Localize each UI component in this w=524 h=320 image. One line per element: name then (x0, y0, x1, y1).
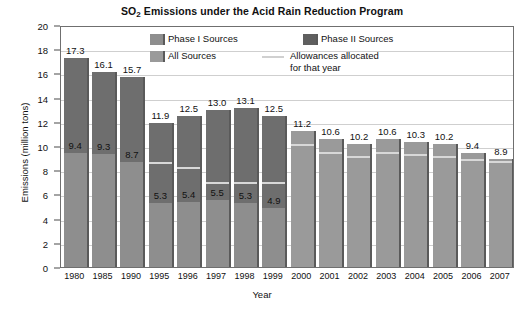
legend-row-2: All Sources Allowances allocated for tha… (150, 50, 450, 67)
legend-swatch-phase-ii-icon (303, 34, 316, 45)
chart-legend: Phase I Sources Phase II Sources All Sou… (150, 33, 450, 67)
x-axis-tick-label: 2001 (320, 271, 340, 281)
x-axis-tick-label: 1999 (263, 271, 283, 281)
legend-item-all-sources: All Sources (150, 50, 216, 62)
x-axis-tick-label: 1980 (64, 271, 84, 281)
x-axis-tick-label: 2004 (405, 271, 425, 281)
x-axis-title: Year (0, 289, 524, 300)
x-axis-tick-label: 2005 (433, 271, 453, 281)
x-axis-tick-label: 2006 (461, 271, 481, 281)
x-axis-tick-label: 1996 (178, 271, 198, 281)
legend-row-1: Phase I Sources Phase II Sources (150, 33, 450, 50)
legend-line-allowances-icon (262, 56, 284, 58)
legend-label-phase-i: Phase I Sources (168, 33, 238, 45)
x-axis-tick-label: 1998 (234, 271, 254, 281)
x-axis-tick-label: 2002 (348, 271, 368, 281)
x-axis-tick-label: 2007 (490, 271, 510, 281)
legend-item-phase-i: Phase I Sources (150, 33, 238, 45)
legend-swatch-phase-i-icon (150, 34, 163, 45)
chart-container: SO2 Emissions under the Acid Rain Reduct… (0, 0, 524, 320)
legend-swatch-all-sources-icon (150, 51, 163, 62)
x-axis-tick-label: 2003 (376, 271, 396, 281)
x-axis-tick-label: 1990 (121, 271, 141, 281)
legend-item-allowances: Allowances allocated for that year (262, 50, 379, 74)
legend-item-phase-ii: Phase II Sources (303, 33, 393, 45)
x-axis-tick-label: 1997 (206, 271, 226, 281)
legend-label-all-sources: All Sources (168, 50, 216, 62)
legend-label-phase-ii: Phase II Sources (321, 33, 393, 45)
x-axis-tick-label: 1985 (93, 271, 113, 281)
x-axis-tick-label: 1995 (149, 271, 169, 281)
x-axis-tick-label: 2000 (291, 271, 311, 281)
legend-label-allowances-line2: for that year (290, 62, 379, 74)
legend-label-allowances: Allowances allocated (290, 50, 379, 61)
